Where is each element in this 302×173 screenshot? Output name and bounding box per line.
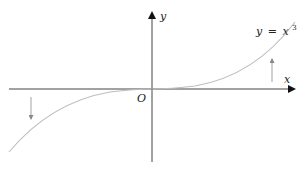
y-axis-label: y: [159, 10, 167, 23]
cubic-graph: y x O y = x 3: [0, 0, 302, 173]
function-label: y = x 3: [255, 24, 297, 38]
origin-label: O: [137, 92, 146, 105]
x-axis-label: x: [284, 73, 291, 86]
